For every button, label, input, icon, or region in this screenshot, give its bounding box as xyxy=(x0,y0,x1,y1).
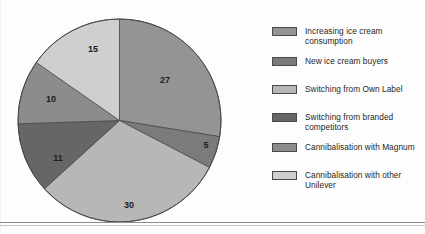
legend-item[interactable]: Cannibalisation with other Unilever xyxy=(272,170,422,191)
legend-item-label: Switching from Own Label xyxy=(305,84,403,94)
legend-item-label: Cannibalisation with other Unilever xyxy=(305,170,422,191)
legend-item[interactable]: Increasing ice cream consumption xyxy=(272,26,422,47)
pie-value-label: 10 xyxy=(46,94,56,104)
pie-slice-group xyxy=(18,19,221,222)
legend-swatch-icon xyxy=(272,57,297,66)
legend-item-label: Increasing ice cream consumption xyxy=(305,26,422,47)
chart-legend: Increasing ice cream consumptionNew ice … xyxy=(272,26,422,199)
footer-rule-secondary xyxy=(0,225,425,226)
legend-swatch-icon xyxy=(272,27,297,36)
pie-value-label: 30 xyxy=(124,200,134,210)
page-left-edge xyxy=(0,0,1,234)
pie-chart: 27530111015 xyxy=(17,18,222,223)
chart-page: 27530111015 Increasing ice cream consump… xyxy=(0,0,425,234)
pie-value-label: 5 xyxy=(203,140,208,150)
legend-item[interactable]: New ice cream buyers xyxy=(272,56,422,75)
legend-swatch-icon xyxy=(272,113,297,122)
legend-item-label: Cannibalisation with Magnum xyxy=(305,142,415,152)
pie-value-label: 11 xyxy=(53,153,63,163)
legend-swatch-icon xyxy=(272,143,297,152)
pie-value-label: 15 xyxy=(88,44,98,54)
pie-value-label: 27 xyxy=(160,75,170,85)
pie-chart-svg: 27530111015 xyxy=(17,18,222,223)
footer-rule-primary xyxy=(0,222,425,223)
legend-item[interactable]: Switching from Own Label xyxy=(272,84,422,103)
legend-swatch-icon xyxy=(272,171,297,180)
legend-swatch-icon xyxy=(272,85,297,94)
legend-item-label: New ice cream buyers xyxy=(305,56,388,66)
pie-slice[interactable] xyxy=(120,19,222,137)
legend-item[interactable]: Cannibalisation with Magnum xyxy=(272,142,422,161)
legend-item-label: Switching from branded competitors xyxy=(305,112,422,133)
legend-item[interactable]: Switching from branded competitors xyxy=(272,112,422,133)
